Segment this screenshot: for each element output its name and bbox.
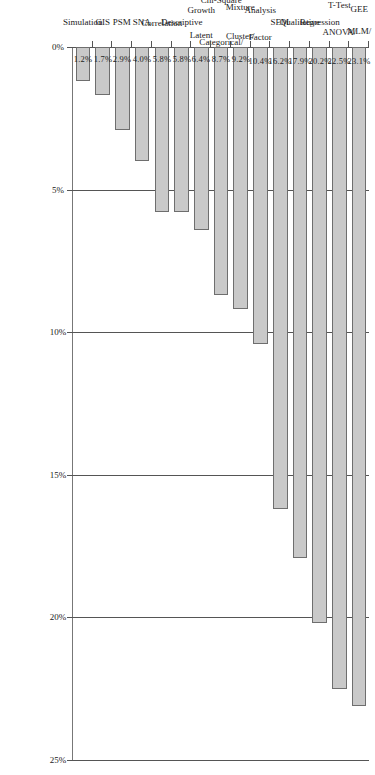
value-tick-label-text: 20% (50, 612, 67, 622)
category-label: Simulation (73, 0, 93, 44)
category-label-line: Latent (190, 30, 213, 41)
category-label: Correlation (152, 0, 172, 44)
value-tick-label: 5% (53, 170, 63, 210)
value-tick (67, 190, 73, 191)
bar-value-label: 6.4% (192, 54, 211, 64)
bar-value-label: 17.9% (288, 56, 311, 66)
value-tick-label-text: 10% (50, 327, 67, 337)
bar-gis: 1.7% (95, 47, 110, 95)
value-tick-label-text: 15% (50, 470, 67, 480)
gridline-25 (73, 760, 369, 761)
bar-row: 5.8% (174, 47, 189, 760)
value-tick-label: 15% (53, 455, 63, 495)
bar-correlation: 5.8% (155, 47, 170, 212)
bar-value-label: 5.8% (153, 54, 172, 64)
bar-value-label: 16.2% (269, 56, 292, 66)
bar-latent-growth: 6.4% (194, 47, 209, 230)
bar-sem: 16.2% (273, 47, 288, 509)
category-label: PSM (112, 0, 132, 44)
bar-row: 2.9% (115, 47, 130, 760)
category-label-line: SEM (271, 17, 290, 27)
category-label-line: Growth (188, 5, 216, 16)
value-tick (67, 332, 73, 333)
value-tick-label-text: 5% (52, 185, 64, 195)
bar-row: 10.4% (253, 47, 268, 760)
value-tick-label-text: 0% (52, 42, 64, 52)
chart-rotated-canvas: 23.1%22.5%20.2%17.9%16.2%10.4%9.2%8.7%6.… (0, 0, 375, 775)
category-label: Qualitative (290, 0, 310, 44)
bar-row: 5.8% (155, 47, 170, 760)
bar-row: 20.2% (312, 47, 327, 760)
bar-row: 17.9% (293, 47, 308, 760)
bar-factor-analysis: 10.4% (253, 47, 268, 344)
bar-anova-t-test: 22.5% (332, 47, 347, 689)
value-tick (67, 617, 73, 618)
bar-row: 4.0% (135, 47, 150, 760)
bar-chart-figure: 23.1%22.5%20.2%17.9%16.2%10.4%9.2%8.7%6.… (0, 0, 375, 775)
bar-sna: 4.0% (135, 47, 150, 161)
bar-value-label: 20.2% (308, 56, 331, 66)
bar-row: 16.2% (273, 47, 288, 760)
bar-value-label: 2.9% (113, 54, 132, 64)
category-label-line: T-Test (328, 0, 351, 11)
category-label-line: SNA (133, 17, 151, 27)
bar-row: 8.7% (214, 47, 229, 760)
value-tick (67, 47, 73, 48)
bar-row: 9.2% (233, 47, 248, 760)
bar-row: 1.7% (95, 47, 110, 760)
value-tick-label: 10% (53, 312, 63, 352)
category-label-line: PSM (113, 17, 131, 27)
bar-regression: 20.2% (312, 47, 327, 623)
bar-mlm-gee: 23.1% (352, 47, 367, 706)
bar-row: 23.1% (352, 47, 367, 760)
bar-value-label: 8.7% (212, 54, 231, 64)
category-label-line: GEE (350, 4, 368, 15)
value-tick (67, 760, 73, 761)
value-tick (67, 475, 73, 476)
category-label: SNA (132, 0, 152, 44)
bar-value-label: 1.7% (93, 54, 112, 64)
bar-cluster-mixture: 9.2% (233, 47, 248, 309)
bar-value-label: 5.8% (172, 54, 191, 64)
plot-area: 23.1%22.5%20.2%17.9%16.2%10.4%9.2%8.7%6.… (73, 47, 369, 760)
bar-simulation: 1.2% (76, 47, 91, 81)
bar-value-label: 1.2% (74, 54, 93, 64)
bar-row: 6.4% (194, 47, 209, 760)
bar-categorical-chi-square: 8.7% (214, 47, 229, 295)
value-tick-label: 0% (53, 27, 63, 67)
bar-row: 22.5% (332, 47, 347, 760)
value-tick-label-text: 25% (50, 755, 67, 765)
bar-value-label: 4.0% (133, 54, 152, 64)
category-label-line: Simulation (63, 17, 103, 27)
bar-value-label: 10.4% (249, 56, 272, 66)
bar-psm: 2.9% (115, 47, 130, 130)
bar-row: 1.2% (76, 47, 91, 760)
bar-value-label: 9.2% (231, 54, 250, 64)
value-tick-label: 20% (53, 597, 63, 637)
bar-value-label: 23.1% (348, 56, 371, 66)
bar-qualitative: 17.9% (293, 47, 308, 558)
value-tick-label: 25% (53, 740, 63, 775)
bar-descriptive: 5.8% (174, 47, 189, 212)
